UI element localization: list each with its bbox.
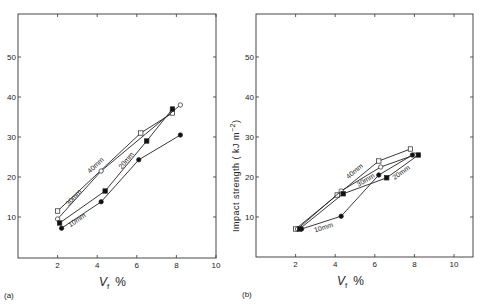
x-axis-label: Vf%	[99, 275, 126, 291]
x-tick-label: 10	[212, 261, 221, 270]
x-tick-label: 4	[333, 260, 338, 269]
data-point-40mm	[55, 209, 59, 213]
figure-canvas: 2468101020304050Vf%(a)40mm30mm20mm10mm24…	[0, 0, 491, 308]
x-tick-label: 8	[412, 260, 417, 269]
data-point-10mm	[59, 226, 63, 230]
data-point-20mm	[384, 176, 388, 180]
data-point-30mm	[178, 103, 182, 107]
data-point-10mm	[339, 214, 343, 218]
y-tick-label: 40	[245, 93, 254, 102]
data-point-40mm	[377, 159, 381, 163]
data-point-10mm	[377, 173, 381, 177]
y-tick-label: 50	[7, 53, 16, 62]
panel-label: (a)	[4, 291, 14, 300]
data-point-10mm	[299, 227, 303, 231]
data-point-20mm	[341, 192, 345, 196]
series-label-10mm: 10mm	[67, 212, 87, 229]
data-point-20mm	[145, 139, 149, 143]
chart-panel-b: 2468101020304050Vf%(b)40mm30mm20mm10mm	[242, 14, 473, 299]
y-axis-label: Impact strength ( kJ m−2)	[229, 119, 241, 232]
x-tick-label: 4	[95, 261, 100, 270]
data-point-20mm	[170, 107, 174, 111]
y-tick-label: 30	[7, 133, 16, 142]
data-point-20mm	[416, 153, 420, 157]
y-tick-label: 10	[245, 213, 254, 222]
y-tick-label: 20	[7, 173, 16, 182]
x-tick-label: 10	[450, 260, 459, 269]
data-point-10mm	[410, 153, 414, 157]
series-line-40mm	[296, 149, 411, 229]
x-tick-label: 6	[135, 261, 140, 270]
plot-frame	[256, 14, 473, 257]
data-point-20mm	[103, 189, 107, 193]
data-point-30mm	[379, 165, 383, 169]
y-tick-label: 20	[245, 173, 254, 182]
series-label-30mm: 30mm	[64, 188, 82, 207]
data-point-10mm	[178, 133, 182, 137]
data-point-40mm	[139, 131, 143, 135]
x-axis-label: Vf%	[337, 274, 364, 290]
data-point-30mm	[99, 169, 103, 173]
y-tick-label: 40	[7, 93, 16, 102]
x-tick-label: 6	[373, 260, 378, 269]
x-tick-label: 2	[293, 260, 298, 269]
y-tick-label: 50	[245, 53, 254, 62]
plot-frame	[18, 14, 216, 258]
y-tick-label: 30	[245, 133, 254, 142]
data-point-10mm	[99, 200, 103, 204]
data-point-10mm	[137, 158, 141, 162]
chart-panel-a: 2468101020304050Vf%(a)40mm30mm20mm10mm	[4, 14, 221, 300]
x-tick-label: 2	[55, 261, 60, 270]
series-label-10mm: 10mm	[313, 221, 334, 234]
panel-label: (b)	[242, 290, 252, 299]
data-point-20mm	[57, 221, 61, 225]
data-point-40mm	[408, 147, 412, 151]
x-tick-label: 8	[174, 261, 179, 270]
y-tick-label: 10	[7, 213, 16, 222]
